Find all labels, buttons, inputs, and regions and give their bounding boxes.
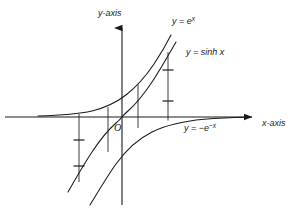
curve-label-sinh: y = sinh x (185, 47, 225, 57)
y-axis-label: y-axis (97, 8, 122, 18)
x-axis-label: x-axis (261, 118, 286, 128)
figure-background (0, 0, 298, 220)
origin-label: O (114, 122, 121, 133)
hyperbolic-sine-diagram: y-axis x-axis O y = ex y = sinh x y = −e… (0, 0, 298, 220)
